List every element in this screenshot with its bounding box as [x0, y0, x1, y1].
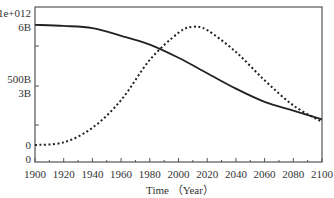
x-tick-label: 1900 — [24, 168, 47, 180]
x-tick-label: 2080 — [282, 168, 305, 180]
x-tick-label: 1940 — [81, 168, 104, 180]
y-tick-label: 0 — [26, 139, 32, 151]
x-tick-label: 1920 — [53, 168, 76, 180]
x-tick-label: 1960 — [110, 168, 133, 180]
plot-frame — [35, 7, 322, 162]
dotted-series-line — [35, 27, 322, 145]
line-chart: 1e+0126B500B3B00 19001920194019601980200… — [0, 0, 334, 198]
y-tick-label: 500B — [7, 73, 31, 85]
x-tick-label: 2000 — [168, 168, 191, 180]
solid-series-line — [35, 25, 322, 120]
y-tick-label: 1e+012 — [0, 7, 31, 19]
x-tick-label: 2060 — [254, 168, 277, 180]
x-axis-labels: 1900192019401960198020002020204020602080… — [24, 168, 334, 180]
x-tick-label: 2040 — [225, 168, 248, 180]
y-tick-label: 6B — [18, 21, 31, 33]
plot-border — [35, 7, 322, 162]
y-axis-labels: 1e+0126B500B3B00 — [0, 7, 32, 165]
series-lines — [35, 25, 322, 145]
y-tick-label: 3B — [18, 87, 31, 99]
x-axis-title: Time （Year） — [146, 184, 214, 196]
x-tick-label: 2020 — [196, 168, 219, 180]
x-tick-label: 2100 — [311, 168, 334, 180]
y-tick-label: 0 — [26, 153, 32, 165]
x-tick-label: 1980 — [139, 168, 162, 180]
